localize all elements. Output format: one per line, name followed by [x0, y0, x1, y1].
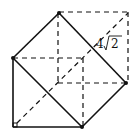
vertex-dots: [11, 11, 128, 129]
side-length-radicand: 2: [111, 38, 119, 50]
dashed-lines: [13, 12, 128, 127]
edge-bottom-right: [82, 83, 126, 127]
vertex-right: [124, 81, 128, 85]
edge-bottom-left: [13, 58, 82, 127]
vertex-top: [57, 11, 61, 15]
edge-top-left: [13, 13, 59, 58]
vertex-left: [11, 56, 15, 60]
geometry-diagram: [0, 0, 137, 139]
vertex-bottom: [80, 125, 84, 129]
side-length-coefficient: 4: [96, 38, 104, 50]
